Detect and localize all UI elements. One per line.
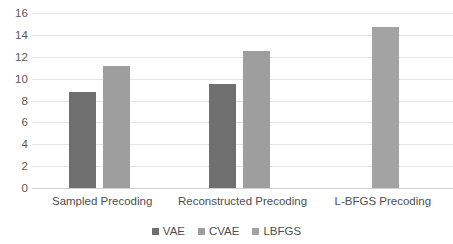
y-axis-tick-label: 16 — [15, 8, 28, 19]
bar-vae-2 — [209, 84, 236, 188]
y-axis-tick-label: 12 — [15, 51, 28, 62]
y-axis-tick-label: 10 — [15, 73, 28, 84]
bar-cvae-1 — [103, 66, 130, 189]
y-axis-tick-label: 6 — [22, 117, 29, 128]
bar-vae-1 — [69, 92, 96, 188]
bar-chart: 0246810121416 Sampled PrecodingReconstru… — [0, 0, 453, 244]
x-axis-category-label: Sampled Precoding — [52, 193, 152, 209]
x-axis-labels: Sampled PrecodingReconstructed Precoding… — [32, 193, 453, 215]
legend-label: LBFGS — [263, 225, 301, 237]
bar-cvae-2 — [243, 51, 270, 188]
x-axis-category-label: Reconstructed Precoding — [178, 193, 307, 209]
legend-swatch-icon — [152, 228, 159, 235]
legend-swatch-icon — [252, 228, 259, 235]
bars-layer — [32, 0, 453, 195]
plot-area: 0246810121416 — [0, 0, 453, 195]
bar-lbfgs-3 — [372, 27, 399, 188]
chart-legend: VAECVAELBFGS — [0, 222, 453, 240]
legend-swatch-icon — [198, 228, 205, 235]
legend-item-lbfgs[interactable]: LBFGS — [252, 225, 301, 237]
legend-item-cvae[interactable]: CVAE — [198, 225, 239, 237]
legend-label: VAE — [163, 225, 185, 237]
y-axis-tick-label: 0 — [22, 183, 29, 194]
y-axis-tick-label: 2 — [22, 161, 29, 172]
y-axis-tick-label: 4 — [22, 139, 29, 150]
y-axis: 0246810121416 — [0, 0, 30, 195]
y-axis-tick-label: 8 — [22, 95, 29, 106]
legend-item-vae[interactable]: VAE — [152, 225, 185, 237]
legend-label: CVAE — [209, 225, 239, 237]
y-axis-tick-label: 14 — [15, 29, 28, 40]
x-axis-category-label: L-BFGS Precoding — [335, 193, 432, 209]
